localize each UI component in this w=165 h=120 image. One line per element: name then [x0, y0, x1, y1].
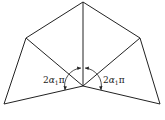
arrow-left-top-icon [77, 67, 81, 71]
edge-lowerright-center [83, 86, 160, 104]
folded-polygon-diagram: 2α1π 2α1π [0, 0, 165, 120]
edge-upperleft-lowerleft [4, 38, 26, 104]
edge-top-upperleft [26, 2, 83, 38]
right-angle-label: 2α1π [103, 75, 125, 86]
edge-lowerleft-center [4, 86, 83, 104]
edge-top-upperright [83, 2, 140, 38]
arrow-right-top-icon [85, 67, 89, 71]
left-angle-label: 2α1π [43, 75, 65, 86]
edge-upperright-lowerright [140, 38, 160, 104]
